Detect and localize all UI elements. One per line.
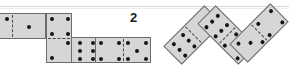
domino-2-5[interactable] xyxy=(95,37,151,63)
pip xyxy=(171,42,177,48)
pip xyxy=(215,13,221,19)
domino-face-five xyxy=(124,39,150,63)
domino-2-1[interactable] xyxy=(0,13,46,39)
domino-face-two xyxy=(97,39,123,63)
pip xyxy=(78,49,82,53)
domino-face-one xyxy=(13,15,45,39)
pip xyxy=(259,40,265,46)
pip xyxy=(99,41,103,45)
pip xyxy=(27,25,31,29)
pip xyxy=(203,24,209,30)
domino-figure-screenshot: 2 xyxy=(0,0,289,79)
domino-4-2[interactable] xyxy=(46,13,72,63)
pip xyxy=(66,32,70,36)
pip xyxy=(209,19,215,25)
figure-label: 2 xyxy=(130,11,137,24)
pip xyxy=(192,43,198,49)
pip xyxy=(50,32,54,36)
pip xyxy=(177,47,183,53)
pip xyxy=(66,17,70,21)
pip xyxy=(224,22,230,28)
pip xyxy=(126,57,130,61)
pip xyxy=(219,28,225,34)
pip xyxy=(78,41,82,45)
pip xyxy=(180,32,186,38)
pip xyxy=(5,17,9,21)
top-rule-secondary xyxy=(0,8,289,9)
pip xyxy=(144,57,148,61)
pip xyxy=(144,41,148,45)
pip xyxy=(186,38,192,44)
pip xyxy=(135,49,139,53)
pip xyxy=(99,57,103,61)
top-rule xyxy=(0,6,289,7)
domino-face-two xyxy=(0,15,12,39)
pip xyxy=(266,33,272,39)
pip xyxy=(117,57,121,61)
pip xyxy=(222,42,228,48)
domino-face-two xyxy=(48,39,72,62)
pip xyxy=(126,41,130,45)
pip xyxy=(50,17,54,21)
pip xyxy=(213,34,219,40)
pip xyxy=(66,41,70,45)
pip xyxy=(50,56,54,60)
pip xyxy=(182,53,188,59)
pip xyxy=(234,55,240,61)
domino-face-four xyxy=(48,15,72,38)
pip xyxy=(78,57,82,61)
pip xyxy=(279,20,285,26)
pip xyxy=(117,41,121,45)
